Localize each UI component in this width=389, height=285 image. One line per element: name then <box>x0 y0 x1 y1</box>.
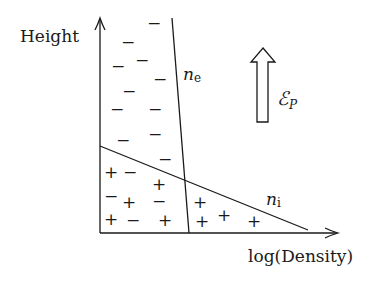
minus-sign-icon: − <box>153 69 167 89</box>
electron-density-label-sub: e <box>194 71 201 85</box>
minus-sign-icon: − <box>116 130 130 150</box>
x-axis-label: log(Density) <box>248 246 353 266</box>
electron-density-label: ne <box>183 64 201 85</box>
plus-sign-icon: + <box>193 192 207 212</box>
ion-density-label-main: n <box>266 189 277 209</box>
charge-signs: −−−−−−−−−−−+−+−+−+−+++++ <box>104 13 261 231</box>
plus-sign-icon: + <box>104 162 118 182</box>
minus-sign-icon: − <box>104 186 118 206</box>
field-arrow-icon <box>251 48 275 122</box>
minus-sign-icon: − <box>148 124 162 144</box>
electron-density-line <box>172 18 189 233</box>
field-label: ℰP <box>277 87 298 112</box>
minus-sign-icon: − <box>158 149 172 169</box>
plus-sign-icon: + <box>158 210 172 230</box>
field-label-sub: P <box>288 98 298 112</box>
minus-sign-icon: − <box>111 56 125 76</box>
minus-sign-icon: − <box>121 32 135 52</box>
minus-sign-icon: − <box>123 162 137 182</box>
plus-sign-icon: + <box>217 205 231 225</box>
minus-sign-icon: − <box>122 81 136 101</box>
electron-density-label-main: n <box>183 64 194 84</box>
plus-sign-icon: + <box>247 211 261 231</box>
plus-sign-icon: + <box>104 209 118 229</box>
ion-density-label: ni <box>266 189 281 210</box>
minus-sign-icon: − <box>148 99 162 119</box>
minus-sign-icon: − <box>147 13 161 33</box>
density-profile-diagram: Height log(Density) ne ni ℰP −−−−−−−−−−−… <box>0 0 389 285</box>
minus-sign-icon: − <box>152 191 166 211</box>
y-axis-label: Height <box>20 26 79 46</box>
ion-density-label-sub: i <box>277 196 281 210</box>
plus-sign-icon: + <box>195 211 209 231</box>
minus-sign-icon: − <box>110 99 124 119</box>
minus-sign-icon: − <box>135 50 149 70</box>
plus-sign-icon: + <box>122 192 136 212</box>
minus-sign-icon: − <box>126 210 140 230</box>
